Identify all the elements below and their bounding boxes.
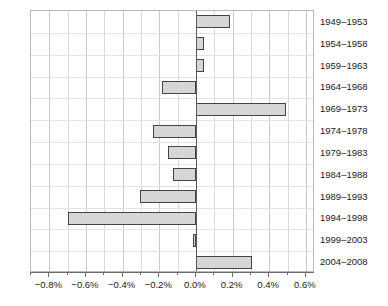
gridline-horizontal (31, 186, 313, 187)
gridline-horizontal (31, 55, 313, 56)
bar (140, 190, 196, 203)
x-axis-tick-label: 0.4% (257, 279, 279, 290)
bar (196, 37, 204, 50)
bar (196, 15, 230, 28)
x-axis-tick (195, 272, 196, 277)
x-axis-tick-minor (103, 272, 104, 275)
x-axis-tick-label: −0.4% (108, 279, 135, 290)
gridline-minor (141, 11, 142, 271)
gridline-horizontal (31, 164, 313, 165)
gridline-horizontal (31, 208, 313, 209)
gridline-minor (288, 11, 289, 271)
x-axis-tick (268, 272, 269, 277)
gridline-horizontal (31, 229, 313, 230)
x-axis-line (30, 272, 314, 273)
x-axis-tick (232, 272, 233, 277)
gridline-major (49, 11, 50, 271)
x-axis-tick-minor (140, 272, 141, 275)
x-axis-tick-label: 0.2% (221, 279, 243, 290)
bar (173, 168, 196, 181)
gridline-major (86, 11, 87, 271)
x-axis-tick (158, 272, 159, 277)
x-axis-tick-minor (250, 272, 251, 275)
x-axis-tick (122, 272, 123, 277)
y-axis-tick-label: 2004–2008 (320, 256, 368, 267)
gridline-horizontal (31, 251, 313, 252)
x-axis-tick-label: −0.8% (35, 279, 62, 290)
x-axis-tick-minor (287, 272, 288, 275)
gridline-minor (214, 11, 215, 271)
bar (162, 81, 196, 94)
bar-chart: 1949–19531954–19581959–19631964–19681969… (0, 0, 388, 306)
gridline-horizontal (31, 77, 313, 78)
gridline-major (159, 11, 160, 271)
y-axis-tick-label: 1984–1988 (320, 168, 368, 179)
plot-area (30, 10, 314, 272)
gridline-minor (104, 11, 105, 271)
bar (196, 103, 286, 116)
gridline-horizontal (31, 33, 313, 34)
x-axis-tick (48, 272, 49, 277)
y-axis-tick-label: 1994–1998 (320, 212, 368, 223)
x-axis-tick-minor (177, 272, 178, 275)
bar (196, 256, 252, 269)
gridline-major (269, 11, 270, 271)
y-axis-tick-label: 1974–1978 (320, 125, 368, 136)
x-axis-tick (305, 272, 306, 277)
bar (153, 125, 196, 138)
gridline-major (123, 11, 124, 271)
y-axis-tick-label: 1979–1983 (320, 146, 368, 157)
gridline-minor (178, 11, 179, 271)
y-axis-tick-label: 1954–1958 (320, 37, 368, 48)
gridline-horizontal (31, 142, 313, 143)
x-axis-tick-label: 0.6% (294, 279, 316, 290)
x-axis-tick-label: 0.0% (184, 279, 206, 290)
x-axis-tick-minor (213, 272, 214, 275)
x-axis-tick-minor (30, 272, 31, 275)
bar (68, 212, 196, 225)
gridline-major (306, 11, 307, 271)
gridline-minor (251, 11, 252, 271)
gridline-major (233, 11, 234, 271)
y-axis-tick-label: 1989–1993 (320, 190, 368, 201)
y-axis-tick-label: 1969–1973 (320, 103, 368, 114)
y-axis-tick-label: 1959–1963 (320, 59, 368, 70)
gridline-horizontal (31, 98, 313, 99)
x-axis-tick-label: −0.2% (145, 279, 172, 290)
gridline-horizontal (31, 120, 313, 121)
y-axis-tick-label: 1999–2003 (320, 234, 368, 245)
gridline-minor (68, 11, 69, 271)
x-axis-tick-label: −0.6% (71, 279, 98, 290)
zero-line (196, 11, 197, 271)
y-axis-tick-label: 1949–1953 (320, 15, 368, 26)
bar (196, 59, 204, 72)
x-axis-tick-minor (67, 272, 68, 275)
x-axis-tick (85, 272, 86, 277)
bar (168, 146, 195, 159)
y-axis-tick-label: 1964–1968 (320, 81, 368, 92)
